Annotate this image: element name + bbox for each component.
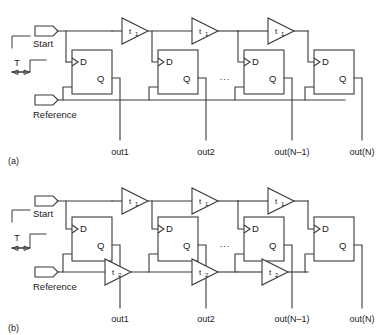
out1-label-b: out1 xyxy=(111,314,129,324)
outn-wire-a xyxy=(354,78,362,140)
outn1-wire-a xyxy=(284,78,292,140)
ff3-q-label-a: Q xyxy=(269,73,276,84)
ff2-q-label-a: Q xyxy=(183,73,190,84)
t-interval-label: T xyxy=(14,58,20,68)
start-input-port-b[interactable] xyxy=(35,196,58,206)
ff1-q-label-b: Q xyxy=(97,240,104,251)
ff3-clk-feed-a xyxy=(235,87,244,100)
ff3-d-label-a: D xyxy=(252,56,259,67)
flipflop-4-body-a xyxy=(314,50,354,94)
ff1-q-label-a: Q xyxy=(97,73,104,84)
reference-input-label-b: Reference xyxy=(33,281,77,292)
ff2-clk-feed-a xyxy=(149,87,158,100)
outn-label-b: out(N) xyxy=(349,314,374,324)
panel-b-label: (b) xyxy=(8,323,19,333)
ff4-d-feed-a xyxy=(308,31,314,62)
out1-label-a: out1 xyxy=(111,147,129,157)
flipflop-1-body-b xyxy=(72,217,112,261)
reference-input-port[interactable] xyxy=(35,95,58,105)
out1-wire-a xyxy=(112,78,120,140)
t-interval-marker-b xyxy=(12,246,30,250)
panel-a-label: (a) xyxy=(8,156,19,166)
ff1-d-label-a: D xyxy=(80,56,87,67)
ff3-d-feed-b xyxy=(238,201,244,229)
flipflop-3-body-a xyxy=(244,50,284,94)
ff2-d-label-b: D xyxy=(166,223,173,234)
ff3-d-feed-a xyxy=(238,31,244,62)
ff3-d-label-b: D xyxy=(252,223,259,234)
ff4-clk-feed-b xyxy=(305,254,314,272)
outn-label-a: out(N) xyxy=(349,147,374,157)
flipflop-2-body-a xyxy=(158,50,198,94)
ellipsis-a: ... xyxy=(220,72,231,82)
out2-label-a: out2 xyxy=(197,147,215,157)
circuit-schematic-figure: T Start Reference D Q out1 t 1 xyxy=(0,0,383,335)
reference-input-port-b[interactable] xyxy=(35,267,58,277)
ff2-q-label-b: Q xyxy=(183,240,190,251)
ff3-clk-feed-b xyxy=(235,254,244,272)
ff4-q-label-b: Q xyxy=(339,240,346,251)
t-interval-marker xyxy=(12,70,30,74)
ff4-d-label-b: D xyxy=(322,223,329,234)
start-timing-waveform xyxy=(12,36,30,48)
panel-b: T Start Reference D Q out1 t 1 t 2 xyxy=(8,188,375,333)
reference-input-label: Reference xyxy=(33,109,77,120)
figure-container: T Start Reference D Q out1 t 1 xyxy=(0,0,383,335)
ff1-d-label-b: D xyxy=(80,223,87,234)
ff2-clk-feed-b xyxy=(149,254,158,272)
ff4-d-feed-b xyxy=(308,201,314,229)
flipflop-1-body-a xyxy=(72,50,112,94)
out2-label-b: out2 xyxy=(197,314,215,324)
ff2-d-feed-b xyxy=(152,201,158,229)
flipflop-3-body-b xyxy=(244,217,284,261)
ff3-q-label-b: Q xyxy=(269,240,276,251)
ff2-d-feed-a xyxy=(152,31,158,62)
flipflop-4-body-b xyxy=(314,217,354,261)
ff4-q-label-a: Q xyxy=(339,73,346,84)
ff4-d-label-a: D xyxy=(322,56,329,67)
ff1-d-feed-b xyxy=(66,201,72,229)
start-input-port[interactable] xyxy=(35,26,58,36)
start-timing-waveform-b xyxy=(12,210,30,222)
ff1-clk-feed-b xyxy=(63,254,72,272)
outn1-label-a: out(N–1) xyxy=(274,147,309,157)
panel-a: T Start Reference D Q out1 t 1 xyxy=(8,18,375,166)
ff2-d-label-a: D xyxy=(166,56,173,67)
ff1-clk-feed-a xyxy=(63,87,72,100)
out2-wire-a xyxy=(198,78,206,140)
ellipsis-b: ... xyxy=(220,239,231,249)
outn-wire-b xyxy=(354,245,362,308)
start-input-label: Start xyxy=(33,38,53,49)
ff4-clk-feed-a xyxy=(305,87,314,100)
t-interval-label-b: T xyxy=(14,233,20,243)
outn1-label-b: out(N–1) xyxy=(274,314,309,324)
start-input-label-b: Start xyxy=(33,208,53,219)
flipflop-2-body-b xyxy=(158,217,198,261)
outn1-wire-b xyxy=(284,245,292,308)
